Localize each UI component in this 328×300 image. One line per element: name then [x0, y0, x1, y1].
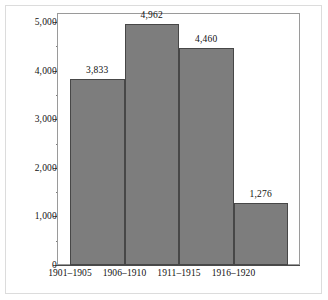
- bar-1901-1905[interactable]: [70, 79, 125, 265]
- bar-1916-1920[interactable]: [234, 203, 289, 265]
- bar-1906-1910[interactable]: [125, 24, 180, 265]
- y-tick-label-5000: 5,000: [21, 17, 57, 27]
- bar-group-1901-1905: 3,833: [70, 13, 125, 265]
- bar-group-1916-1920: 1,276: [234, 13, 289, 265]
- x-tick-label-1906-1910: 1906–1910: [94, 268, 156, 278]
- bar-1911-1915[interactable]: [179, 48, 234, 265]
- bar-group-1906-1910: 4,962: [125, 13, 180, 265]
- y-axis-ticks: 0 1,000 2,000 3,000 4,000 5,000: [13, 0, 57, 300]
- x-axis-line: [57, 265, 300, 266]
- y-tick-label-3000: 3,000: [21, 114, 57, 124]
- bar-value-label-1916-1920: 1,276: [250, 189, 272, 199]
- y-tick-label-1000: 1,000: [21, 211, 57, 221]
- y-tick-label-4000: 4,000: [21, 66, 57, 76]
- x-axis-labels: 1901–1905 1906–1910 1911–1915 1916–1920: [57, 268, 300, 284]
- bar-group-1911-1915: 4,460: [179, 13, 234, 265]
- bar-value-label-1901-1905: 3,833: [86, 65, 108, 75]
- x-tick-label-1901-1905: 1901–1905: [39, 268, 101, 278]
- bar-value-label-1911-1915: 4,460: [195, 34, 217, 44]
- y-tick-label-2000: 2,000: [21, 163, 57, 173]
- x-tick-label-1911-1915: 1911–1915: [148, 268, 210, 278]
- bars-layer: 3,833 4,962 4,460 1,276: [70, 13, 288, 265]
- x-tick-label-1916-1920: 1916–1920: [203, 268, 265, 278]
- bar-value-label-1906-1910: 4,962: [141, 10, 163, 20]
- immigration-bar-chart: Total immigration during five-year perio…: [0, 0, 328, 300]
